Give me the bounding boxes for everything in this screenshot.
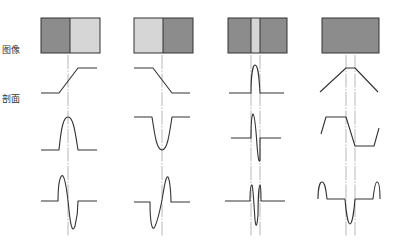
image-region-dark [163, 18, 193, 53]
first-derivative-curve [321, 117, 379, 146]
second-derivative-curve [225, 185, 285, 225]
column-step-edge-rising [41, 18, 100, 236]
column-thin-line [225, 18, 287, 236]
intensity-profile-curve [320, 68, 378, 92]
first-derivative-curve [41, 117, 97, 150]
second-derivative-curve [318, 182, 380, 224]
image-region-light [134, 18, 163, 53]
column-roof-edge [318, 18, 380, 236]
first-derivative-curve [231, 114, 281, 161]
image-region-dark [260, 18, 287, 53]
edge-profile-diagram [0, 0, 393, 242]
image-region-dark [41, 18, 70, 53]
image-region-light [70, 18, 100, 53]
column-step-edge-falling [134, 18, 193, 236]
image-region-light [251, 18, 260, 53]
intensity-profile-curve [41, 68, 97, 93]
image-region-dark [228, 18, 251, 53]
intensity-profile-curve [229, 65, 284, 93]
second-derivative-curve [41, 176, 97, 229]
image-region-dark [322, 18, 379, 53]
